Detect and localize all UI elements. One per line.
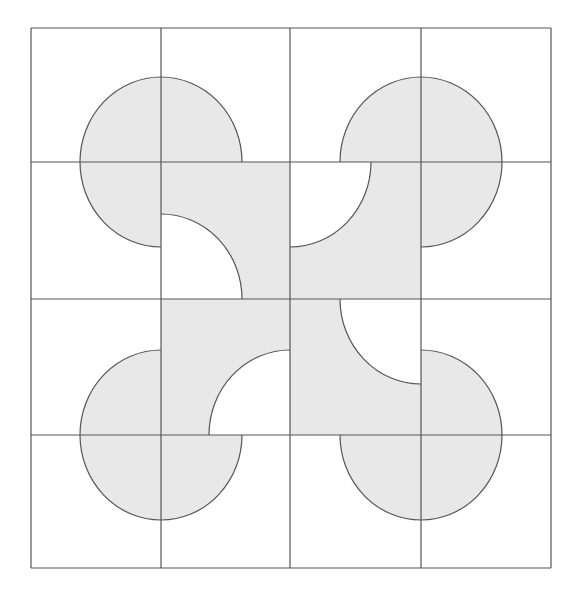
tile-pattern-diagram [0,0,581,592]
